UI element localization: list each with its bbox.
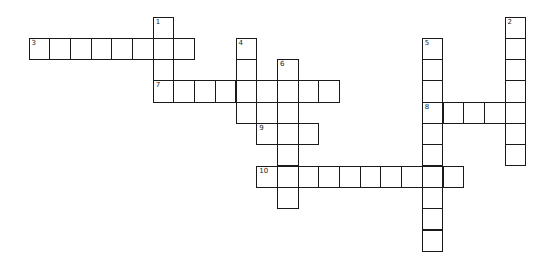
crossword-cell[interactable] xyxy=(422,187,444,209)
crossword-cell[interactable]: 8 xyxy=(422,102,444,124)
crossword-cell[interactable]: 9 xyxy=(256,123,278,145)
clue-number: 1 xyxy=(156,18,160,26)
crossword-cell[interactable] xyxy=(463,102,485,124)
crossword-cell[interactable] xyxy=(277,187,299,209)
crossword-cell[interactable] xyxy=(132,38,154,60)
crossword-cell[interactable] xyxy=(380,166,402,188)
crossword-cell[interactable] xyxy=(277,144,299,166)
clue-number: 6 xyxy=(280,60,284,68)
clue-number: 7 xyxy=(156,81,160,89)
crossword-cell[interactable]: 2 xyxy=(505,17,527,39)
crossword-cell[interactable] xyxy=(422,80,444,102)
crossword-cell[interactable] xyxy=(505,102,527,124)
crossword-cell[interactable] xyxy=(153,59,175,81)
clue-number: 4 xyxy=(239,39,243,47)
clue-number: 9 xyxy=(259,124,263,132)
clue-number: 2 xyxy=(508,18,512,26)
crossword-cell[interactable] xyxy=(173,38,195,60)
crossword-cell[interactable]: 5 xyxy=(422,38,444,60)
crossword-cell[interactable] xyxy=(443,166,465,188)
crossword-cell[interactable] xyxy=(422,230,444,252)
crossword-grid: 17234586910 xyxy=(0,0,552,269)
crossword-cell[interactable] xyxy=(505,144,527,166)
clue-number: 5 xyxy=(425,39,429,47)
crossword-cell[interactable] xyxy=(70,38,92,60)
crossword-cell[interactable] xyxy=(277,80,299,102)
crossword-cell[interactable] xyxy=(236,59,258,81)
clue-number: 10 xyxy=(259,167,268,175)
crossword-cell[interactable] xyxy=(277,166,299,188)
crossword-cell[interactable]: 6 xyxy=(277,59,299,81)
crossword-cell[interactable] xyxy=(422,144,444,166)
crossword-cell[interactable] xyxy=(318,166,340,188)
crossword-cell[interactable] xyxy=(422,166,444,188)
crossword-cell[interactable] xyxy=(505,80,527,102)
crossword-cell[interactable] xyxy=(505,59,527,81)
crossword-cell[interactable] xyxy=(111,38,133,60)
crossword-cell[interactable]: 3 xyxy=(29,38,51,60)
crossword-cell[interactable]: 1 xyxy=(153,17,175,39)
crossword-cell[interactable] xyxy=(318,80,340,102)
crossword-cell[interactable] xyxy=(173,80,195,102)
crossword-cell[interactable] xyxy=(422,208,444,230)
crossword-cell[interactable] xyxy=(443,102,465,124)
crossword-cell[interactable] xyxy=(91,38,113,60)
crossword-cell[interactable] xyxy=(401,166,423,188)
clue-number: 3 xyxy=(32,39,36,47)
crossword-cell[interactable] xyxy=(49,38,71,60)
crossword-cell[interactable] xyxy=(236,102,258,124)
crossword-cell[interactable] xyxy=(298,80,320,102)
crossword-cell[interactable] xyxy=(422,123,444,145)
crossword-cell[interactable] xyxy=(277,102,299,124)
crossword-cell[interactable] xyxy=(194,80,216,102)
clue-number: 8 xyxy=(425,103,429,111)
crossword-cell[interactable] xyxy=(422,59,444,81)
crossword-cell[interactable] xyxy=(298,166,320,188)
crossword-cell[interactable] xyxy=(298,123,320,145)
crossword-cell[interactable] xyxy=(277,123,299,145)
crossword-cell[interactable] xyxy=(236,80,258,102)
crossword-cell[interactable] xyxy=(505,38,527,60)
crossword-cell[interactable]: 10 xyxy=(256,166,278,188)
crossword-cell[interactable] xyxy=(484,102,506,124)
crossword-cell[interactable] xyxy=(215,80,237,102)
crossword-cell[interactable] xyxy=(256,80,278,102)
crossword-cell[interactable]: 4 xyxy=(236,38,258,60)
crossword-cell[interactable]: 7 xyxy=(153,80,175,102)
crossword-cell[interactable] xyxy=(505,123,527,145)
crossword-cell[interactable] xyxy=(153,38,175,60)
crossword-cell[interactable] xyxy=(360,166,382,188)
crossword-cell[interactable] xyxy=(339,166,361,188)
